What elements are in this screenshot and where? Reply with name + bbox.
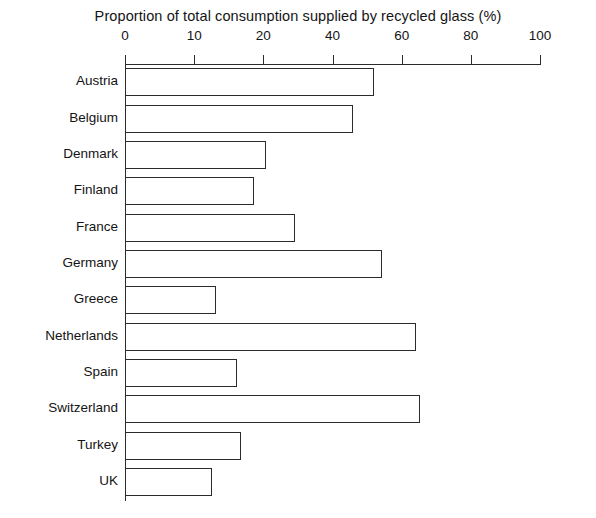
x-axis-tick	[402, 55, 403, 64]
x-axis-tick-label: 80	[463, 28, 478, 43]
bar-row	[125, 250, 540, 278]
x-axis-tick-label: 20	[256, 28, 271, 43]
category-label: Spain	[0, 364, 118, 379]
category-label: Austria	[0, 73, 118, 88]
category-label: UK	[0, 473, 118, 488]
x-axis-tick	[125, 55, 126, 64]
bar	[125, 395, 420, 423]
x-axis-tick	[471, 55, 472, 64]
bar-row	[125, 286, 540, 314]
category-label: Denmark	[0, 146, 118, 161]
bar-row	[125, 468, 540, 496]
bar	[125, 286, 216, 314]
x-axis-tick-label: 100	[529, 28, 552, 43]
bar-row	[125, 395, 540, 423]
bar	[125, 68, 374, 96]
bar	[125, 359, 237, 387]
bar-row	[125, 105, 540, 133]
x-axis-tick	[194, 55, 195, 64]
x-axis-tick-label: 60	[394, 28, 409, 43]
bar	[125, 177, 254, 205]
bar-row	[125, 432, 540, 460]
bar-row	[125, 141, 540, 169]
bar-row	[125, 359, 540, 387]
category-label: France	[0, 219, 118, 234]
category-label: Greece	[0, 291, 118, 306]
x-axis-tick-label: 40	[325, 28, 340, 43]
recycled-glass-bar-chart: Proportion of total consumption supplied…	[0, 0, 596, 518]
x-axis-tick	[263, 55, 264, 64]
x-axis-ticks: 01020406080100	[125, 48, 540, 64]
bar	[125, 468, 212, 496]
category-label: Turkey	[0, 437, 118, 452]
x-axis-tick	[333, 55, 334, 64]
category-label: Germany	[0, 255, 118, 270]
category-label: Switzerland	[0, 400, 118, 415]
x-axis-tick-label: 0	[121, 28, 129, 43]
y-axis-category-labels: AustriaBelgiumDenmarkFinlandFranceGerman…	[0, 64, 118, 500]
bar	[125, 141, 266, 169]
category-label: Belgium	[0, 110, 118, 125]
bar	[125, 214, 295, 242]
x-axis-tick-label: 10	[187, 28, 202, 43]
bar	[125, 432, 241, 460]
bar	[125, 105, 353, 133]
bar	[125, 323, 416, 351]
bar-row	[125, 214, 540, 242]
bars-container	[125, 64, 540, 500]
bar-row	[125, 177, 540, 205]
bar	[125, 250, 382, 278]
bar-row	[125, 323, 540, 351]
x-axis-tick	[540, 55, 541, 64]
category-label: Netherlands	[0, 328, 118, 343]
bar-row	[125, 68, 540, 96]
chart-title: Proportion of total consumption supplied…	[0, 8, 596, 24]
category-label: Finland	[0, 182, 118, 197]
